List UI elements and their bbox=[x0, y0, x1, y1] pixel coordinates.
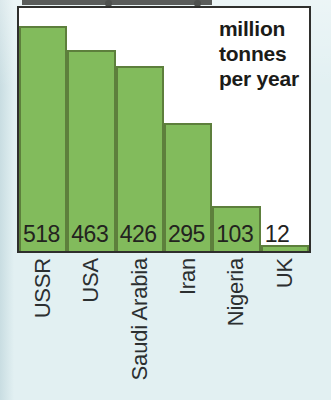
bar-value-iran: 295 bbox=[164, 223, 212, 246]
plot-area: 51846342629510312 bbox=[19, 8, 309, 251]
page-background: million tonnes per year 5184634262951031… bbox=[0, 0, 331, 400]
cropped-element-above-chart bbox=[22, 0, 212, 5]
chart-frame: million tonnes per year 5184634262951031… bbox=[17, 6, 311, 253]
category-label-iran: Iran bbox=[177, 258, 199, 295]
category-label-slot: USSR bbox=[19, 258, 67, 398]
bar-value-saudi-arabia: 426 bbox=[116, 223, 164, 246]
category-label-slot: Iran bbox=[164, 258, 212, 398]
category-label-uk: UK bbox=[274, 258, 296, 288]
category-label-usa: USA bbox=[80, 258, 102, 303]
category-label-saudi-arabia: Saudi Arabia bbox=[129, 258, 151, 380]
category-label-slot: UK bbox=[261, 258, 309, 398]
category-label-ussr: USSR bbox=[32, 258, 54, 318]
bar-value-nigeria: 103 bbox=[212, 223, 260, 246]
bar-value-ussr: 518 bbox=[19, 223, 67, 246]
bar-value-usa: 463 bbox=[67, 223, 115, 246]
bar-ussr bbox=[19, 26, 67, 251]
bar-value-uk: 12 bbox=[261, 223, 309, 246]
category-axis-labels: USSRUSASaudi ArabiaIranNigeriaUK bbox=[17, 258, 311, 398]
category-label-slot: Saudi Arabia bbox=[116, 258, 164, 398]
category-label-slot: USA bbox=[67, 258, 115, 398]
category-label-nigeria: Nigeria bbox=[225, 258, 247, 326]
category-label-slot: Nigeria bbox=[212, 258, 260, 398]
